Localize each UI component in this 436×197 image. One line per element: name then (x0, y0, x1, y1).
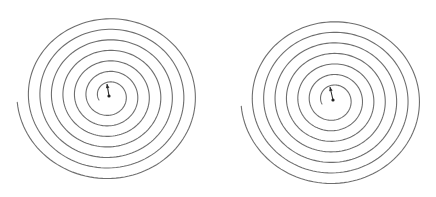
left-center-dot (107, 94, 110, 97)
right-spiral (241, 22, 419, 184)
left-spiral (17, 19, 195, 179)
left-spiral-group (17, 19, 195, 179)
spiral-figure (0, 0, 436, 197)
right-center-dot (331, 98, 334, 101)
right-spiral-group (241, 22, 419, 184)
